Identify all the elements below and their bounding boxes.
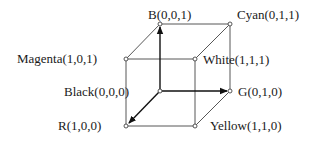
- rgb-cube-diagram: B(0,0,1) Cyan(0,1,1) Magenta(1,0,1) Whit…: [0, 0, 313, 142]
- label-b: B(0,0,1): [148, 8, 191, 21]
- label-black: Black(0,0,0): [64, 85, 129, 98]
- label-g: G(0,1,0): [238, 85, 282, 98]
- label-yellow: Yellow(1,1,0): [210, 119, 282, 132]
- label-white: White(1,1,1): [203, 53, 269, 66]
- r-axis-arrow: [129, 91, 160, 123]
- label-magenta: Magenta(1,0,1): [17, 52, 97, 65]
- label-r: R(1,0,0): [58, 119, 101, 132]
- label-cyan: Cyan(0,1,1): [237, 8, 299, 21]
